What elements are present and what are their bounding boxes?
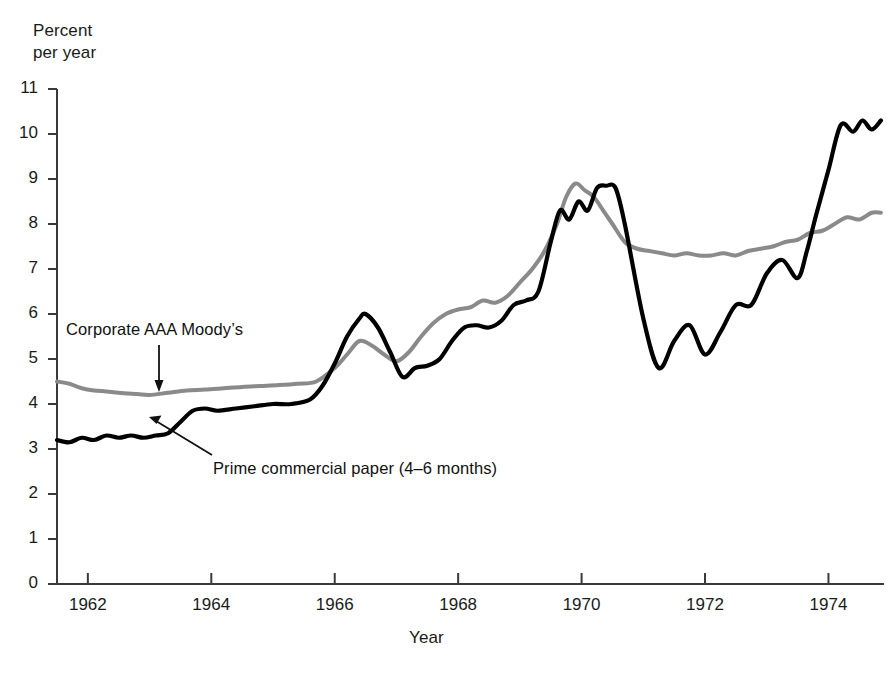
- y-tick-label: 3: [12, 438, 38, 458]
- x-tick-label: 1974: [798, 595, 858, 615]
- corporate-aaa-moodys-label: Corporate AAA Moody’s: [66, 320, 243, 339]
- y-axis-title: Percent per year: [33, 20, 96, 64]
- y-tick-label: 10: [12, 123, 38, 143]
- prime-commercial-paper-label: Prime commercial paper (4–6 months): [213, 459, 497, 478]
- x-tick-label: 1972: [675, 595, 735, 615]
- y-tick-label: 1: [12, 528, 38, 548]
- corporate-label-arrow-head: [155, 380, 164, 392]
- series-line-prime-commercial-paper: [57, 120, 881, 442]
- prime-label-arrow-shaft: [156, 421, 212, 455]
- y-tick-label: 8: [12, 213, 38, 233]
- y-tick-label: 7: [12, 258, 38, 278]
- x-tick-label: 1962: [58, 595, 118, 615]
- y-tick-label: 5: [12, 348, 38, 368]
- x-tick-label: 1964: [181, 595, 241, 615]
- x-tick-label: 1968: [428, 595, 488, 615]
- interest-rate-line-chart: Percent per year Year Corporate AAA Mood…: [0, 0, 892, 676]
- y-tick-label: 11: [12, 78, 38, 98]
- y-tick-label: 4: [12, 393, 38, 413]
- x-axis-title: Year: [409, 627, 444, 649]
- y-tick-label: 0: [12, 573, 38, 593]
- y-tick-label: 9: [12, 168, 38, 188]
- data-series-layer: [57, 120, 881, 442]
- x-tick-label: 1970: [552, 595, 612, 615]
- annotation-arrows: [149, 345, 212, 455]
- y-tick-label: 2: [12, 483, 38, 503]
- x-tick-label: 1966: [305, 595, 365, 615]
- y-axis-tick-marks: [48, 89, 57, 584]
- y-tick-label: 6: [12, 303, 38, 323]
- x-axis-tick-marks: [88, 573, 829, 584]
